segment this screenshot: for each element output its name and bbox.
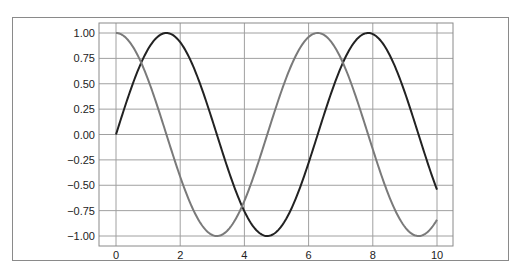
y-tick-label: −0.50 — [67, 179, 95, 191]
x-tick-label: 10 — [431, 249, 443, 261]
y-tick-label: −1.00 — [67, 230, 95, 242]
x-axis-tick-labels: 0246810 — [113, 249, 443, 261]
y-tick-label: 0.75 — [74, 52, 95, 64]
x-tick-label: 6 — [306, 249, 312, 261]
grid-lines — [99, 23, 453, 246]
line-chart: 1.000.750.500.250.00−0.25−0.50−0.75−1.00… — [0, 0, 520, 272]
y-tick-label: 0.00 — [74, 129, 95, 141]
y-tick-label: 1.00 — [74, 27, 95, 39]
y-tick-label: −0.75 — [67, 205, 95, 217]
x-tick-label: 2 — [177, 249, 183, 261]
x-tick-label: 4 — [241, 249, 247, 261]
x-tick-label: 0 — [113, 249, 119, 261]
y-axis-tick-labels: 1.000.750.500.250.00−0.25−0.50−0.75−1.00 — [67, 27, 95, 242]
y-tick-label: 0.50 — [74, 78, 95, 90]
y-tick-label: −0.25 — [67, 154, 95, 166]
x-tick-label: 8 — [370, 249, 376, 261]
y-tick-label: 0.25 — [74, 103, 95, 115]
